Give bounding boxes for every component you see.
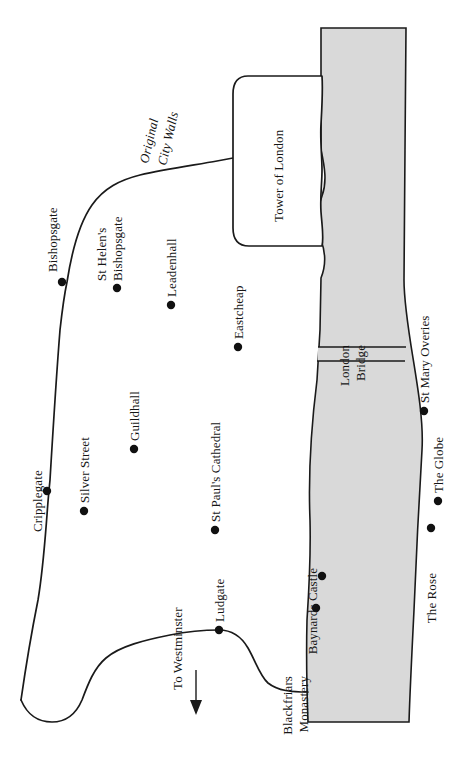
label-ludgate: Ludgate (212, 579, 227, 622)
label-silver-street: Silver Street (77, 437, 92, 503)
label-baynards-castle: Baynards Castle (305, 568, 320, 654)
label-st-mary-overies: St Mary Overies (417, 316, 432, 403)
label-eastcheap: Eastcheap (231, 285, 246, 339)
westminster-arrow-head (190, 700, 202, 715)
label-original-city-walls-line2: City Walls (154, 110, 181, 166)
label-tower-of-london: Tower of London (271, 129, 286, 222)
dot-the-globe (434, 497, 442, 505)
label-london-bridge-line2: Bridge (353, 345, 368, 381)
label-st-helens-bishopsgate-line2: Bishopsgate (110, 216, 125, 281)
city-walls-west-south (21, 630, 308, 722)
label-to-westminster: To Westminster (170, 607, 185, 690)
dot-guildhall (130, 445, 138, 453)
label-the-globe: The Globe (431, 437, 446, 493)
dot-st-pauls-cathedral (211, 526, 219, 534)
dot-the-rose (427, 524, 435, 532)
map-canvas: Bishopsgate St Helen's Bishopsgate Leade… (0, 0, 471, 759)
london-map: Bishopsgate St Helen's Bishopsgate Leade… (0, 0, 471, 759)
label-london-bridge-line1: London (337, 345, 352, 386)
dot-bishopsgate (58, 278, 66, 286)
label-the-rose: The Rose (424, 573, 439, 623)
label-cripplegate: Cripplegate (30, 470, 45, 532)
label-guildhall: Guildhall (127, 391, 142, 441)
dot-leadenhall (167, 301, 175, 309)
label-st-pauls-cathedral: St Paul's Cathedral (208, 421, 223, 522)
dot-st-helens-bishopsgate (113, 284, 121, 292)
label-blackfriars-monastery-line1: Blackfriars (280, 676, 295, 735)
dot-ludgate (215, 626, 223, 634)
label-blackfriars-monastery-line2: Monastery (296, 676, 311, 733)
label-st-helens-bishopsgate-line1: St Helen's (94, 227, 109, 281)
label-bishopsgate: Bishopsgate (45, 207, 60, 272)
dot-st-mary-overies (420, 407, 428, 415)
dot-eastcheap (234, 343, 242, 351)
dot-silver-street (80, 507, 88, 515)
label-leadenhall: Leadenhall (164, 238, 179, 297)
